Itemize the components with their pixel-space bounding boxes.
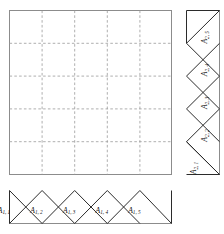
hat-line-5 bbox=[107, 191, 171, 224]
bottom-label-2: A1, 2 bbox=[29, 206, 43, 216]
bottom-label-5: A1, 5 bbox=[127, 206, 141, 216]
basis-function-figure: A1, 1 A1, 2 A1, 3 A1, 4 A1, 5 bbox=[0, 0, 224, 234]
right-hat-functions-group: A2, 1 A2, 2 A2, 3 A2, 4 A2, 5 bbox=[187, 11, 220, 176]
figure-canvas: A1, 1 A1, 2 A1, 3 A1, 4 A1, 5 bbox=[0, 0, 224, 234]
domain-square-border bbox=[10, 11, 172, 175]
right-label-5: A2, 5 bbox=[200, 31, 210, 45]
domain-square-group bbox=[10, 11, 172, 175]
right-label-1: A2, 1 bbox=[189, 161, 199, 175]
bottom-label-4: A1, 4 bbox=[95, 206, 109, 216]
right-label-2: A2, 2 bbox=[200, 129, 210, 143]
right-label-4: A2, 4 bbox=[200, 63, 210, 77]
right-label-3: A2, 3 bbox=[200, 96, 210, 110]
bottom-hat-functions-group: A1, 1 A1, 2 A1, 3 A1, 4 A1, 5 bbox=[0, 191, 172, 224]
bottom-label-3: A1, 3 bbox=[62, 206, 76, 216]
